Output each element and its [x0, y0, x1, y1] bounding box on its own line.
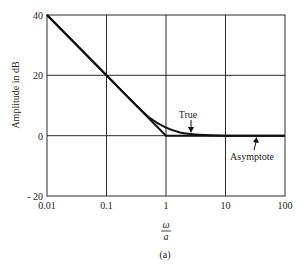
annotation-asymptote-arrow-shaft	[254, 142, 256, 150]
x-label-numerator: ω	[162, 219, 169, 230]
y-tick: 40	[33, 10, 43, 21]
x-tick: 10	[221, 200, 231, 211]
y-tick: 20	[33, 70, 43, 81]
y-axis-ticks: 40 20 0 - 20	[27, 10, 43, 202]
x-label-denominator: a	[164, 231, 169, 242]
y-axis-label: Amplitude in dB	[10, 61, 21, 129]
arrow-down-icon	[188, 127, 194, 133]
annotation-asymptote-label: Asymptote	[230, 151, 274, 162]
figure-caption: (a)	[159, 249, 170, 261]
x-tick: 1	[164, 200, 169, 211]
arrow-up-icon	[253, 137, 259, 143]
x-tick: 0.01	[38, 200, 56, 211]
x-axis-ticks: 0.01 0.1 1 10 100	[38, 200, 292, 211]
annotation-true: True	[179, 109, 198, 133]
y-tick: 0	[38, 131, 43, 142]
x-tick: 100	[278, 200, 293, 211]
x-axis-label: ω a	[161, 219, 171, 242]
bode-plot: 40 20 0 - 20 0.01 0.1 1 10 100 Amplitude…	[0, 0, 305, 269]
annotation-asymptote: Asymptote	[230, 137, 274, 162]
x-tick: 0.1	[100, 200, 113, 211]
annotation-true-label: True	[179, 109, 198, 120]
grid	[47, 15, 285, 196]
